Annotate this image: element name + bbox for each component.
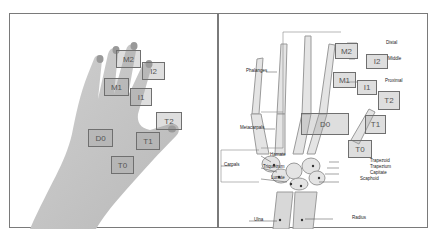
label-radius: Radius	[352, 215, 366, 220]
region-box-t2: T2	[156, 112, 182, 130]
xray-region-box-d0: D0	[301, 113, 349, 135]
xray-region-box-m2: M2	[335, 43, 358, 59]
label-phalanges: Phalanges	[246, 68, 267, 73]
label-ulna: Ulna	[254, 217, 263, 222]
label-trapezoid: Trapezoid	[370, 158, 390, 163]
label-capitate: Capitate	[370, 170, 387, 175]
region-box-d0: D0	[88, 129, 113, 147]
label-scaphoid: Scaphoid	[360, 176, 379, 181]
label-carpals: Carpals	[224, 162, 240, 167]
xray-region-box-i1: I1	[357, 80, 377, 95]
xray-region-box-t2: T2	[378, 91, 400, 110]
xray-region-box-i2: I2	[366, 54, 388, 69]
region-box-i2: I2	[142, 62, 165, 80]
xray-region-box-m1: M1	[333, 72, 356, 88]
region-box-t0: T0	[111, 156, 134, 174]
label-hamate: Hamate	[270, 152, 286, 157]
label-proximal: Proximal	[385, 78, 403, 83]
xray-region-box-t1: T1	[365, 115, 386, 134]
label-triquetrum: Triquetrum	[263, 164, 285, 169]
xray-region-box-t0: T0	[348, 140, 372, 158]
region-box-m1: M1	[104, 78, 129, 96]
label-lunate: Lunate	[271, 175, 285, 180]
hand-photo-panel	[9, 13, 218, 228]
region-box-t1: T1	[136, 132, 160, 150]
label-trapezium: Trapezium	[370, 164, 391, 169]
label-middle: Middle	[388, 56, 401, 61]
hand-illustration	[10, 14, 219, 229]
region-box-m2: M2	[116, 50, 141, 68]
label-metacarpals: Metacarpals	[240, 125, 265, 130]
region-box-i1: I1	[130, 88, 152, 106]
label-distal: Distal	[386, 40, 397, 45]
